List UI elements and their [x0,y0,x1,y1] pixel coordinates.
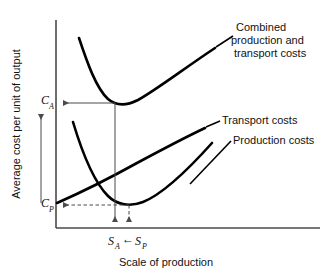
leader-production [190,141,231,184]
label-scale-shift-arrow: ← [122,232,134,246]
y-axis-title: Average cost per unit of output [10,49,22,199]
cost-scale-diagram: Combined production and transport costs … [0,0,332,274]
label-cp-subscript: P [48,205,54,214]
x-axis-title: Scale of production [119,256,213,268]
chart-canvas: Combined production and transport costs … [0,0,332,274]
leader-transport [206,121,220,127]
label-sp-symbol: S [135,234,141,248]
label-combined-line1: Combined [236,21,286,33]
label-sa-subscript: A [114,242,120,251]
label-sa-symbol: S [108,234,114,248]
label-transport-costs: Transport costs [222,114,298,126]
curve-combined-costs [79,38,215,104]
label-ca-subscript: A [48,102,54,111]
label-production-costs: Production costs [233,134,315,146]
label-combined-line2: production and [231,34,304,46]
label-combined-line3: transport costs [234,47,307,59]
label-sp-subscript: P [141,242,147,251]
